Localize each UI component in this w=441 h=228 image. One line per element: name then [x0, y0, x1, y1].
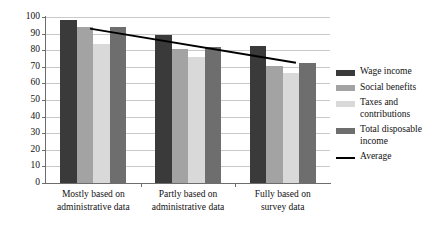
y-axis-tick-label: 0 — [35, 178, 40, 188]
x-axis-category-label: Fully based onsurvey data — [235, 188, 330, 224]
y-axis-tick-label: 60 — [31, 79, 41, 89]
legend-item-label: Social benefits — [360, 82, 416, 94]
y-axis-tick-label: 50 — [31, 95, 41, 105]
grouped-bar-chart: 0102030405060708090100 Mostly based onad… — [0, 0, 441, 228]
chart-legend: Wage incomeSocial benefitsTaxes and cont… — [336, 66, 441, 167]
x-axis-category-label-line: Partly based on — [141, 188, 236, 201]
y-axis-tick-label: 40 — [31, 112, 41, 122]
x-axis-category-label: Mostly based onadministrative data — [46, 188, 141, 224]
legend-item-label: Average — [360, 151, 391, 163]
y-axis-tick-label: 20 — [31, 145, 41, 155]
x-axis-category-label-line: administrative data — [141, 201, 236, 214]
y-axis-tick — [42, 183, 46, 184]
x-axis-category-label: Partly based onadministrative data — [141, 188, 236, 224]
average-trend-line — [90, 29, 296, 63]
legend-item-label: Total disposable income — [360, 124, 441, 147]
y-axis-tick-label: 80 — [31, 45, 41, 55]
legend-item[interactable]: Wage income — [336, 66, 441, 78]
legend-item-label: Taxes and contributions — [360, 97, 441, 120]
x-axis-category-label-line: administrative data — [46, 201, 141, 214]
legend-line-swatch — [336, 157, 355, 159]
legend-color-swatch — [336, 101, 355, 107]
legend-item-label: Wage income — [360, 66, 412, 78]
plot-area: 0102030405060708090100 — [46, 17, 330, 183]
y-axis-tick-label: 100 — [26, 12, 40, 22]
legend-color-swatch — [336, 70, 355, 76]
legend-item[interactable]: Social benefits — [336, 82, 441, 94]
legend-item[interactable]: Average — [336, 151, 441, 163]
x-axis-category-label-line: Fully based on — [235, 188, 330, 201]
legend-item[interactable]: Total disposable income — [336, 124, 441, 147]
y-axis-tick-label: 30 — [31, 128, 41, 138]
y-axis-tick-label: 90 — [31, 29, 41, 39]
x-axis-category-label-line: Mostly based on — [46, 188, 141, 201]
y-axis-tick-label: 10 — [31, 162, 41, 172]
x-axis-group-tick — [141, 183, 142, 187]
x-axis-labels: Mostly based onadministrative dataPartly… — [46, 188, 330, 224]
x-axis-group-tick — [235, 183, 236, 187]
x-axis-category-label-line: survey data — [235, 201, 330, 214]
x-axis-line — [45, 183, 331, 184]
y-axis-tick-label: 70 — [31, 62, 41, 72]
legend-color-swatch — [336, 85, 355, 91]
legend-item[interactable]: Taxes and contributions — [336, 97, 441, 120]
legend-color-swatch — [336, 128, 355, 134]
average-line-layer — [46, 17, 330, 183]
